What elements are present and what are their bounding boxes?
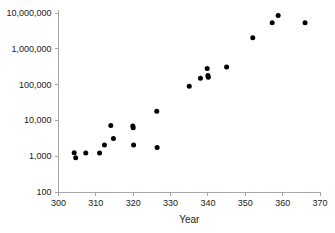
data-point xyxy=(250,35,255,40)
x-tick-label: 320 xyxy=(126,199,141,208)
y-tick-label: 1,000,000 xyxy=(11,44,51,53)
data-point xyxy=(276,13,281,18)
x-tick-label: 360 xyxy=(275,199,290,208)
data-point xyxy=(131,143,136,148)
y-axis xyxy=(55,10,59,192)
x-tick-label: 310 xyxy=(88,199,103,208)
y-tick-label: 100,000 xyxy=(19,80,52,89)
data-point xyxy=(72,150,77,155)
data-point xyxy=(206,75,211,80)
data-point xyxy=(73,155,78,160)
data-points-group xyxy=(72,13,308,160)
data-point xyxy=(198,76,203,81)
y-tick-label: 1,000 xyxy=(29,152,52,161)
x-axis-title: Year xyxy=(179,214,199,225)
x-tick-label: 330 xyxy=(163,199,178,208)
x-tick-label: 350 xyxy=(238,199,253,208)
data-point xyxy=(154,109,159,114)
data-point xyxy=(270,20,275,25)
x-axis xyxy=(59,192,321,196)
data-point xyxy=(224,65,229,70)
data-point xyxy=(102,143,107,148)
data-point xyxy=(131,125,136,130)
y-tick-label: 100 xyxy=(36,188,51,197)
data-point xyxy=(303,20,308,25)
data-point xyxy=(111,136,116,141)
data-point xyxy=(187,84,192,89)
data-point xyxy=(155,145,160,150)
x-tick-label: 340 xyxy=(200,199,215,208)
y-tick-label: 10,000,000 xyxy=(6,9,51,18)
data-point xyxy=(83,150,88,155)
x-tick-label: 300 xyxy=(51,199,66,208)
data-point xyxy=(108,123,113,128)
data-point xyxy=(205,66,210,71)
data-point xyxy=(97,151,102,156)
scatter-chart: 1001,00010,000100,0001,000,00010,000,000… xyxy=(0,0,335,233)
y-tick-label: 10,000 xyxy=(24,116,52,125)
x-tick-label: 370 xyxy=(312,199,327,208)
